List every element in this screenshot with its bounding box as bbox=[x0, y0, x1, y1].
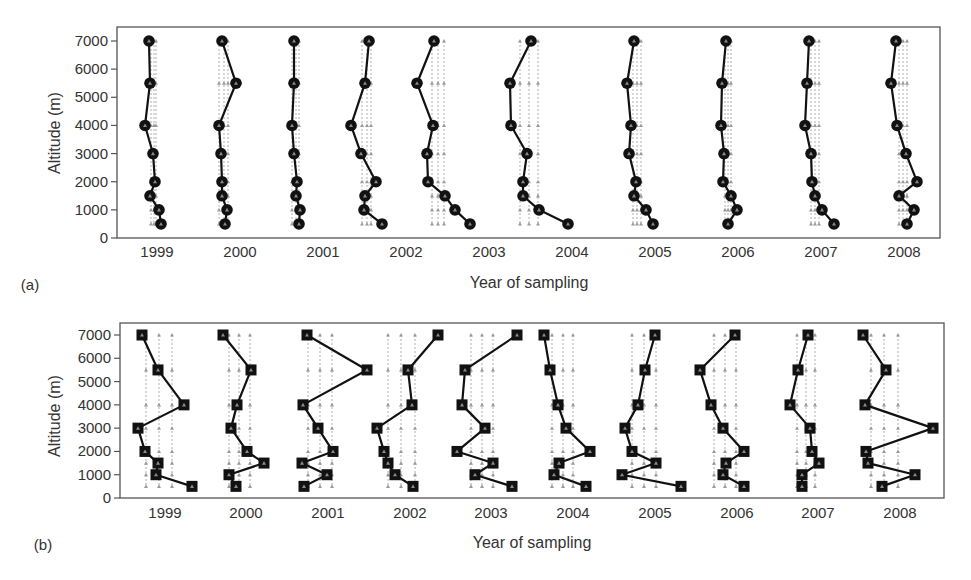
reference-triangle-icon bbox=[430, 81, 434, 85]
profile-2003 bbox=[411, 35, 476, 230]
reference-triangle-icon bbox=[639, 81, 643, 85]
reference-triangle-icon bbox=[442, 39, 446, 43]
reference-triangle-icon bbox=[144, 368, 148, 372]
profile-2002 bbox=[372, 330, 444, 492]
reference-triangle-icon bbox=[442, 180, 446, 184]
profile-2001 bbox=[286, 35, 306, 230]
x-tick-label: 2001 bbox=[306, 243, 339, 260]
reference-triangle-icon bbox=[237, 426, 241, 430]
reference-triangle-icon bbox=[386, 426, 390, 430]
reference-triangle-icon bbox=[527, 81, 531, 85]
reference-triangle-icon bbox=[897, 208, 901, 212]
reference-triangle-icon bbox=[442, 152, 446, 156]
reference-triangle-icon bbox=[413, 461, 417, 465]
x-tick-label: 2001 bbox=[311, 504, 344, 521]
reference-triangle-icon bbox=[804, 368, 808, 372]
reference-triangle-icon bbox=[413, 426, 417, 430]
reference-triangle-icon bbox=[369, 222, 373, 226]
reference-triangle-icon bbox=[571, 473, 575, 477]
reference-triangle-icon bbox=[442, 222, 446, 226]
reference-triangle-icon bbox=[157, 484, 161, 488]
reference-triangle-icon bbox=[561, 449, 565, 453]
reference-triangle-icon bbox=[905, 39, 909, 43]
reference-triangle-icon bbox=[723, 403, 727, 407]
reference-triangle-icon bbox=[795, 403, 799, 407]
reference-triangle-icon bbox=[480, 449, 484, 453]
reference-triangle-icon bbox=[330, 484, 334, 488]
reference-triangle-icon bbox=[795, 333, 799, 337]
reference-triangle-icon bbox=[639, 123, 643, 127]
reference-triangle-icon bbox=[550, 449, 554, 453]
reference-triangle-icon bbox=[318, 449, 322, 453]
x-tick-label: 2006 bbox=[721, 243, 754, 260]
reference-triangle-icon bbox=[712, 333, 716, 337]
reference-triangle-icon bbox=[399, 484, 403, 488]
reference-triangle-icon bbox=[518, 39, 522, 43]
reference-triangle-icon bbox=[227, 484, 231, 488]
profile-1999 bbox=[133, 330, 198, 492]
profile-2007 bbox=[785, 330, 825, 492]
reference-triangle-icon bbox=[723, 484, 727, 488]
reference-triangle-icon bbox=[436, 81, 440, 85]
reference-triangle-icon bbox=[639, 222, 643, 226]
reference-triangle-icon bbox=[813, 484, 817, 488]
reference-triangle-icon bbox=[642, 473, 646, 477]
reference-triangle-icon bbox=[571, 403, 575, 407]
reference-triangle-icon bbox=[360, 123, 364, 127]
figure: 0100020003000400050006000700019992000200… bbox=[0, 0, 971, 580]
reference-triangle-icon bbox=[170, 333, 174, 337]
reference-triangle-icon bbox=[413, 333, 417, 337]
reference-triangle-icon bbox=[227, 368, 231, 372]
y-axis-title: Altitude (m) bbox=[46, 375, 63, 457]
reference-triangle-icon bbox=[237, 461, 241, 465]
reference-triangle-icon bbox=[469, 426, 473, 430]
reference-triangle-icon bbox=[896, 484, 900, 488]
reference-triangle-icon bbox=[413, 368, 417, 372]
reference-triangle-icon bbox=[518, 81, 522, 85]
reference-triangle-icon bbox=[527, 123, 531, 127]
reference-triangle-icon bbox=[631, 208, 635, 212]
profile-2003 bbox=[452, 330, 523, 492]
reference-triangle-icon bbox=[869, 333, 873, 337]
y-tick-label: 6000 bbox=[78, 349, 111, 366]
x-tick-label: 2007 bbox=[804, 243, 837, 260]
reference-triangle-icon bbox=[654, 403, 658, 407]
reference-triangle-icon bbox=[491, 484, 495, 488]
reference-triangle-icon bbox=[571, 426, 575, 430]
reference-triangle-icon bbox=[571, 461, 575, 465]
reference-triangle-icon bbox=[712, 426, 716, 430]
reference-triangle-icon bbox=[144, 426, 148, 430]
reference-triangle-icon bbox=[237, 473, 241, 477]
reference-triangle-icon bbox=[901, 180, 905, 184]
reference-triangle-icon bbox=[882, 461, 886, 465]
reference-triangle-icon bbox=[527, 222, 531, 226]
y-tick-label: 4000 bbox=[78, 396, 111, 413]
reference-triangle-icon bbox=[536, 123, 540, 127]
reference-triangle-icon bbox=[480, 461, 484, 465]
reference-triangle-icon bbox=[536, 81, 540, 85]
reference-triangle-icon bbox=[318, 461, 322, 465]
reference-triangle-icon bbox=[217, 208, 221, 212]
reference-triangle-icon bbox=[217, 81, 221, 85]
reference-triangle-icon bbox=[170, 461, 174, 465]
reference-triangle-icon bbox=[536, 222, 540, 226]
reference-triangle-icon bbox=[712, 449, 716, 453]
reference-triangle-icon bbox=[144, 403, 148, 407]
reference-triangle-icon bbox=[571, 484, 575, 488]
reference-triangle-icon bbox=[813, 473, 817, 477]
y-tick-label: 7000 bbox=[78, 326, 111, 343]
profile-2008 bbox=[885, 35, 923, 230]
y-tick-label: 3000 bbox=[75, 145, 108, 162]
reference-triangle-icon bbox=[369, 152, 373, 156]
x-tick-label: 2008 bbox=[883, 504, 916, 521]
reference-triangle-icon bbox=[729, 123, 733, 127]
reference-triangle-icon bbox=[491, 403, 495, 407]
x-tick-label: 2000 bbox=[223, 243, 256, 260]
reference-triangle-icon bbox=[170, 484, 174, 488]
reference-triangle-icon bbox=[723, 449, 727, 453]
reference-triangle-icon bbox=[813, 222, 817, 226]
y-tick-label: 0 bbox=[100, 229, 108, 246]
x-tick-label: 1999 bbox=[148, 504, 181, 521]
reference-triangle-icon bbox=[480, 368, 484, 372]
reference-triangle-icon bbox=[237, 449, 241, 453]
